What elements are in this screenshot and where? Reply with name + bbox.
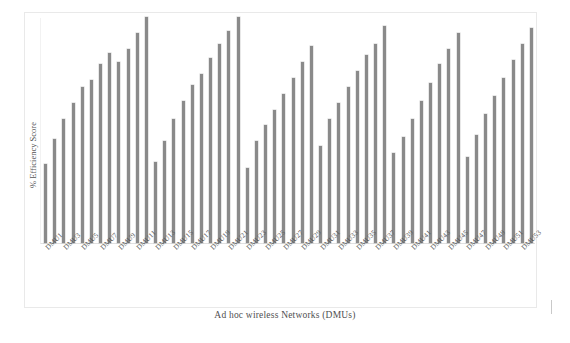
bar [356, 71, 359, 243]
bar [172, 119, 175, 243]
bar [108, 53, 111, 243]
page-edge-mark [551, 300, 552, 314]
bar [200, 74, 203, 244]
bar [72, 103, 75, 243]
bar [383, 26, 386, 243]
bar [273, 110, 276, 243]
bar [347, 87, 350, 243]
y-axis-title-text: % Efficiency Score [28, 122, 38, 188]
bar [237, 17, 240, 243]
bar [521, 44, 524, 243]
bar [292, 78, 295, 243]
bar [310, 46, 313, 243]
bar [328, 119, 331, 243]
bar [512, 60, 515, 243]
bar [447, 49, 450, 243]
bar [475, 135, 478, 243]
bar [81, 87, 84, 243]
x-axis-title: Ad hoc wireless Networks (DMUs) [0, 310, 570, 320]
bar [493, 96, 496, 243]
bar [319, 146, 322, 243]
bar [502, 78, 505, 243]
bar [136, 33, 139, 243]
bar [365, 55, 368, 243]
bar [484, 114, 487, 243]
bar [402, 137, 405, 243]
bar [218, 44, 221, 243]
bar [127, 49, 130, 243]
bar [191, 85, 194, 243]
bar [337, 103, 340, 243]
bar [227, 31, 230, 243]
bar-series [41, 18, 535, 243]
bar [145, 17, 148, 243]
bar [99, 64, 102, 243]
bar [209, 58, 212, 243]
y-axis-title: % Efficiency Score [26, 95, 40, 215]
bar [530, 28, 533, 243]
bar [438, 64, 441, 243]
bar [255, 141, 258, 243]
plot-area [40, 18, 535, 244]
bar [282, 94, 285, 243]
bar [457, 33, 460, 243]
bar [182, 101, 185, 243]
bar [301, 62, 304, 243]
bar [411, 119, 414, 243]
bar [90, 80, 93, 243]
bar-chart-figure: % Efficiency Score DMU1DMU3DMU5DMU7DMU9D… [0, 0, 570, 343]
bar [117, 62, 120, 243]
bar [53, 139, 56, 243]
bar [163, 141, 166, 243]
bar [420, 101, 423, 243]
x-axis-tick-labels: DMU1DMU3DMU5DMU7DMU9DMU11DMU13DMU15DMU17… [40, 246, 535, 304]
bar [264, 125, 267, 243]
bar [62, 119, 65, 243]
bar [429, 83, 432, 243]
bar [44, 164, 47, 243]
bar [374, 44, 377, 243]
